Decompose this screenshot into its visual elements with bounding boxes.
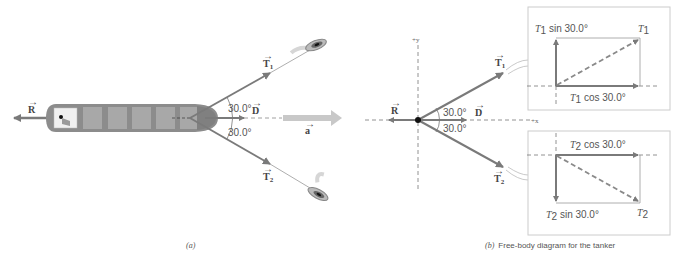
inset-T2-components: T2 cos 30.0° T2 sin 30.0° T2 xyxy=(527,131,670,235)
tow-rope-2 xyxy=(270,164,310,188)
cargo-hold-2 xyxy=(108,107,127,129)
fbd-angle-upper-label: 30.0° xyxy=(443,107,466,118)
vector-arrow-glyph: → xyxy=(263,163,273,174)
vector-arrow-glyph: → xyxy=(305,118,315,129)
vector-arrow-glyph: → xyxy=(252,97,262,108)
vector-arrow-glyph: → xyxy=(475,99,485,110)
origin-point xyxy=(415,117,421,123)
tugboat-1 xyxy=(290,37,328,59)
panel-a: R → T1 → T2 → xyxy=(14,37,342,250)
angle-lower-label: 30.0° xyxy=(228,127,251,138)
tow-rope-1 xyxy=(270,50,310,73)
callout-T2 xyxy=(506,167,528,180)
vector-arrow-glyph: → xyxy=(391,97,401,108)
inset-T1-components: T1 sin 30.0° T1 T1 cos 30.0° xyxy=(527,7,670,110)
x-axis-label: +x xyxy=(531,117,539,125)
angle-upper-label: 30.0° xyxy=(228,103,251,114)
tanker-diagram: R → T1 → T2 → xyxy=(0,0,679,255)
vector-arrow-glyph: → xyxy=(28,96,38,107)
vector-arrow-glyph: → xyxy=(494,165,504,176)
y-axis-label: +y xyxy=(412,36,420,44)
callout-T1 xyxy=(506,60,528,74)
tanker-bridge xyxy=(54,108,77,128)
vector-T2-arrow xyxy=(190,118,270,164)
fbd-angle-lower-label: 30.0° xyxy=(443,123,466,134)
panel-b-caption: (b)Free-body diagram for the tanker xyxy=(485,241,616,250)
cargo-hold-3 xyxy=(132,107,151,129)
vector-arrow-glyph: → xyxy=(263,50,273,61)
acceleration-arrow-head xyxy=(331,110,342,126)
tugboat-2 xyxy=(306,171,337,203)
panel-a-caption: (a) xyxy=(186,241,196,250)
cargo-hold-1 xyxy=(83,107,102,129)
panel-b: +y +x R → D → T1 → T2 → 30.0° 30.0° xyxy=(365,7,670,250)
vector-arrow-glyph: → xyxy=(495,49,505,60)
